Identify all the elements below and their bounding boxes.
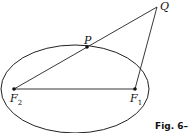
- line-f2-q: [14, 7, 157, 89]
- point-f1: [133, 87, 137, 91]
- figure-caption: Fig. 6–: [155, 121, 188, 131]
- label-f2: F2: [10, 93, 22, 107]
- ellipse-diagram: [0, 0, 188, 133]
- label-q: Q: [160, 1, 169, 12]
- label-p: P: [84, 35, 91, 46]
- label-f1: F1: [130, 93, 142, 107]
- point-f2: [12, 87, 16, 91]
